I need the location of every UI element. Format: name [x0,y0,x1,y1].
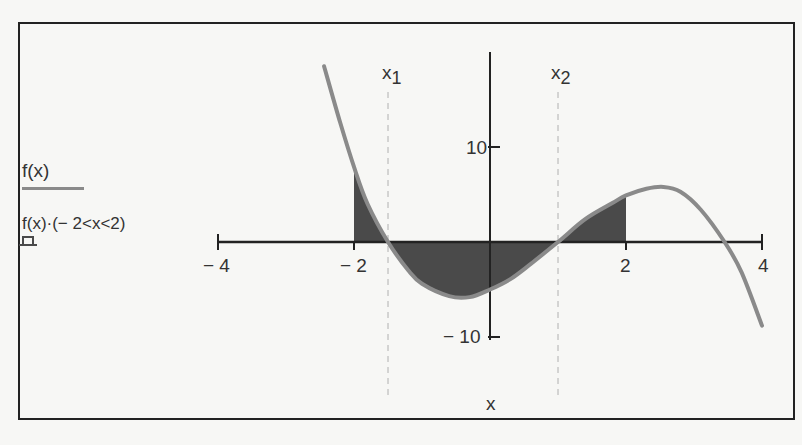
legend-label-fx: f(x) [22,160,49,182]
legend-label-fill: f(x)·(− 2<x<2) [22,214,125,234]
legend-fill-swatch-icon [22,236,34,244]
marker-label-x2: x2 [551,62,571,89]
x-tick-label-4: 4 [758,255,769,277]
marker-label-x1: x1 [382,62,402,89]
y-tick-label-10: 10 [466,137,487,159]
x-tick-label-neg4: − 4 [203,255,230,277]
x-tick-label-neg2: − 2 [340,255,367,277]
legend-fill-swatch-base [19,244,37,246]
legend-line-fx [22,187,84,190]
x-tick-label-2: 2 [620,255,631,277]
x-axis-label: x [486,393,496,415]
y-tick-label-neg10: − 10 [443,326,481,348]
fx-curve-series [324,66,762,325]
